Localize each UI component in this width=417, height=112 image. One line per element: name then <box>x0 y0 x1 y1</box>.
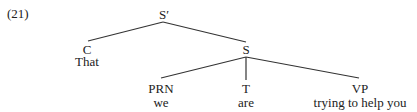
edge-S-PRN <box>161 57 246 78</box>
node-PRN-label: PRN <box>148 82 173 95</box>
edge-S-VP <box>246 57 359 78</box>
node-VP-word: trying to help you <box>314 96 407 109</box>
node-T-label: T <box>242 82 250 95</box>
edge-root-C <box>88 22 163 41</box>
node-VP-label: VP <box>352 82 369 95</box>
edge-root-S <box>163 22 246 42</box>
node-PRN-word: we <box>153 96 168 109</box>
node-T-word: are <box>238 96 254 109</box>
node-root-label: S′ <box>159 8 169 21</box>
node-S-label: S <box>242 43 249 56</box>
node-C-word: That <box>75 55 99 68</box>
